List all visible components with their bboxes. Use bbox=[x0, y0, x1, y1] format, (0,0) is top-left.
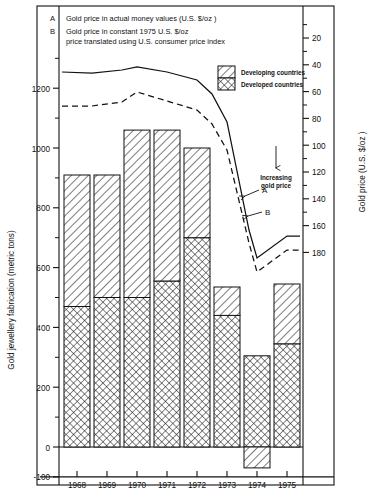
y2-tick-label-80: 80 bbox=[312, 115, 322, 124]
curve-a-leader bbox=[245, 190, 259, 196]
bar-segment-developed bbox=[64, 307, 90, 448]
y2-tick-label-180: 180 bbox=[312, 249, 326, 258]
x-tick-label-1975: 1975 bbox=[278, 481, 297, 490]
x-tick-label-1973: 1973 bbox=[218, 481, 237, 490]
bar-segment-developing bbox=[64, 175, 90, 307]
header-key-b: B bbox=[50, 27, 55, 36]
header-line-b1: Gold price in constant 1975 U.S. $/oz bbox=[66, 27, 189, 36]
chart-figure: A Gold price in actual money values (U.S… bbox=[0, 0, 377, 493]
y-tick-label-1000: 1000 bbox=[32, 145, 51, 154]
legend-swatch-developing bbox=[218, 66, 235, 78]
x-tick-label-1974: 1974 bbox=[248, 481, 267, 490]
header-line-a: Gold price in actual money values (U.S. … bbox=[66, 14, 216, 23]
y2-axis-title: Gold price (U.S. $/oz ) bbox=[358, 131, 367, 212]
legend-label-developing: Developing countries bbox=[241, 69, 306, 77]
y-tick-label-600: 600 bbox=[36, 264, 50, 273]
bar-segment-developed bbox=[184, 238, 210, 447]
bar-segment-developing bbox=[124, 130, 150, 297]
annotation-line2: gold price bbox=[261, 182, 292, 190]
bar-segment-developed bbox=[214, 315, 240, 447]
x-tick-label-1968: 1968 bbox=[68, 481, 87, 490]
x-tick-label-1970: 1970 bbox=[128, 481, 147, 490]
y2-tick-label-140: 140 bbox=[312, 195, 326, 204]
y2-tick-label-40: 40 bbox=[312, 61, 322, 70]
bar-segment-developed bbox=[94, 298, 120, 448]
curve-label-b: B bbox=[265, 208, 270, 217]
header-line-b2: price translated using U.S. consumer pri… bbox=[66, 37, 225, 46]
y2-tick-label-60: 60 bbox=[312, 88, 322, 97]
chart-canvas: A Gold price in actual money values (U.S… bbox=[0, 0, 377, 493]
annotation-line1: Increasing bbox=[260, 174, 292, 182]
y-axis-right-ticks bbox=[303, 25, 309, 226]
bar-segment-developing-negative bbox=[244, 447, 270, 468]
y-tick-label-0: 0 bbox=[45, 444, 50, 453]
y-tick-label--100: -100 bbox=[34, 473, 51, 482]
y2-tick-label-20: 20 bbox=[312, 34, 322, 43]
bar-segment-developed bbox=[244, 356, 270, 447]
bar-segment-developing bbox=[214, 287, 240, 315]
y-tick-label-200: 200 bbox=[36, 384, 50, 393]
bar-segment-developing bbox=[274, 284, 300, 344]
bar-group-1970 bbox=[124, 130, 150, 447]
bar-segment-developed bbox=[124, 298, 150, 448]
x-tick-label-1969: 1969 bbox=[98, 481, 117, 490]
y2-tick-label-120: 120 bbox=[312, 168, 326, 177]
bar-group-1971 bbox=[154, 130, 180, 447]
y-axis-left-ticks bbox=[53, 58, 59, 477]
x-tick-label-1972: 1972 bbox=[188, 481, 207, 490]
bar-group-1973 bbox=[214, 287, 240, 447]
header-key-a: A bbox=[50, 14, 56, 23]
y-tick-label-1200: 1200 bbox=[32, 85, 51, 94]
bar-group-1975 bbox=[274, 284, 300, 447]
x-axis-ticks bbox=[77, 471, 287, 477]
y2-tick-label-100: 100 bbox=[312, 142, 326, 151]
bar-segment-developed bbox=[274, 344, 300, 447]
y-tick-label-800: 800 bbox=[36, 204, 50, 213]
legend: Developing countries Developed countries bbox=[218, 66, 306, 90]
bar-segment-developed bbox=[154, 281, 180, 447]
bar-segment-developing bbox=[154, 130, 180, 281]
curve-b-leader bbox=[248, 212, 262, 216]
bar-group-1969 bbox=[94, 175, 120, 447]
bar-group-1974 bbox=[244, 356, 270, 468]
bar-segment-developing bbox=[184, 148, 210, 238]
bar-segment-developing bbox=[94, 175, 120, 298]
y-axis-title: Gold jewellery fabrication (metric tons) bbox=[7, 230, 16, 370]
bar-group-1968 bbox=[64, 175, 90, 447]
bar-group-1972 bbox=[184, 148, 210, 447]
legend-label-developed: Developed countries bbox=[241, 81, 303, 89]
y2-tick-label-160: 160 bbox=[312, 222, 326, 231]
y-tick-label-400: 400 bbox=[36, 324, 50, 333]
x-tick-label-1971: 1971 bbox=[158, 481, 177, 490]
legend-swatch-developed bbox=[218, 78, 235, 90]
